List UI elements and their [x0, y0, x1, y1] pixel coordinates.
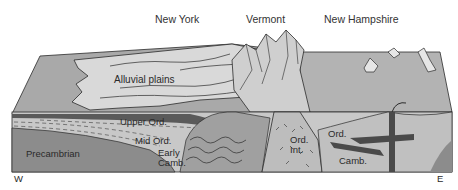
label-upper-ord: Upper Ord. — [120, 117, 167, 127]
label-mid-ord: Mid Ord. — [135, 136, 171, 146]
label-vermont: Vermont — [246, 14, 285, 25]
label-precambrian: Precambrian — [26, 149, 80, 159]
block-diagram — [0, 0, 458, 190]
label-camb: Camb. — [158, 158, 186, 168]
label-west: W — [14, 174, 23, 184]
label-camb-east: Camb. — [339, 156, 367, 166]
label-ord-east: Ord. — [328, 129, 346, 139]
label-new-hampshire: New Hampshire — [324, 14, 399, 25]
volcanic-conduit — [389, 112, 395, 172]
label-east: E — [437, 174, 443, 184]
label-ord-int-int: Int. — [290, 145, 303, 155]
label-new-york: New York — [155, 14, 199, 25]
label-alluvial-plains: Alluvial plains — [114, 75, 175, 85]
vermont-mountains — [232, 30, 310, 112]
